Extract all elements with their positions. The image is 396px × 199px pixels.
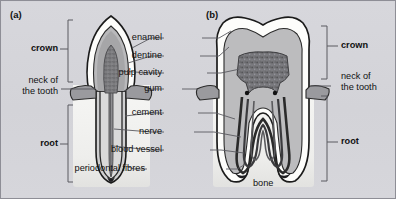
- panel-label-b: (b): [206, 10, 218, 20]
- molar-pulp-dot-right: [273, 91, 277, 95]
- tooth-molar-group: [196, 17, 329, 187]
- brackets-right: [311, 26, 338, 181]
- label-right-neck-line2: the tooth: [341, 83, 377, 93]
- label-right-root: root: [341, 137, 359, 147]
- molar-gum-right: [306, 85, 329, 100]
- label-nerve: nerve: [1, 127, 162, 137]
- bracket-right-crown: [321, 26, 327, 79]
- label-left-neck-line2: the tooth: [1, 87, 58, 97]
- label-enamel: enamel: [1, 33, 162, 43]
- label-cement: cement: [1, 108, 162, 118]
- label-left-neck-line1: neck of: [1, 76, 58, 86]
- panel-label-a: (a): [10, 10, 22, 20]
- molar-gum-left: [196, 85, 219, 100]
- label-left-crown: crown: [1, 44, 58, 54]
- label-right-neck-line1: neck of: [341, 72, 371, 82]
- label-bone: bone: [253, 179, 273, 189]
- molar-pulp-dot-left: [245, 91, 249, 95]
- label-right-crown: crown: [341, 41, 368, 51]
- tooth-anatomy-figure: (a) (b) enamel dentine pulp cavity gum c…: [0, 0, 396, 199]
- label-periodontal-fibres: periodontal fibres: [1, 164, 145, 174]
- bracket-right-root: [321, 96, 327, 181]
- label-left-root: root: [1, 139, 58, 149]
